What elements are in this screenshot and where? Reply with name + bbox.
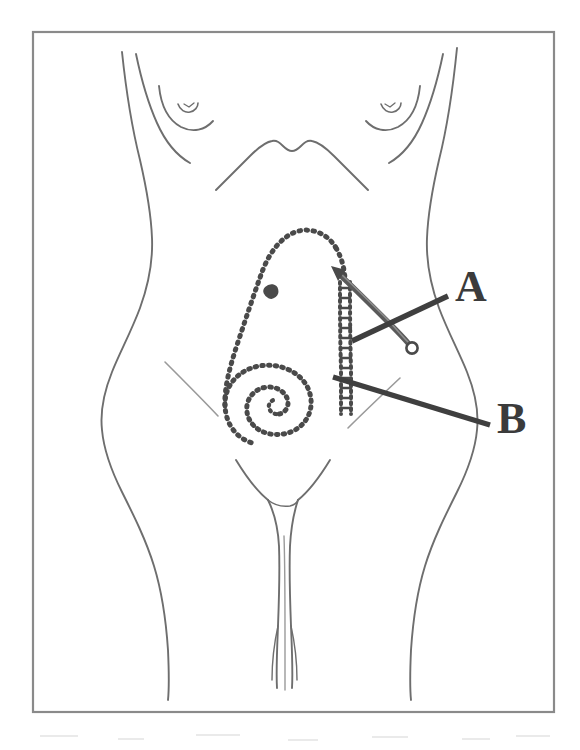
catheter-tip [406, 342, 417, 353]
anatomical-diagram [0, 0, 580, 750]
scan-speckle [196, 734, 240, 736]
label-b: B [497, 397, 526, 441]
scan-speckle [462, 738, 490, 740]
figure-page: A B [0, 0, 580, 750]
label-a: A [455, 265, 487, 309]
umbilicus [265, 286, 278, 298]
scan-speckle [288, 739, 318, 741]
scan-speckle [118, 738, 144, 740]
scan-speckle [40, 735, 78, 737]
scan-speckle [516, 735, 550, 737]
scan-speckle [372, 736, 408, 738]
